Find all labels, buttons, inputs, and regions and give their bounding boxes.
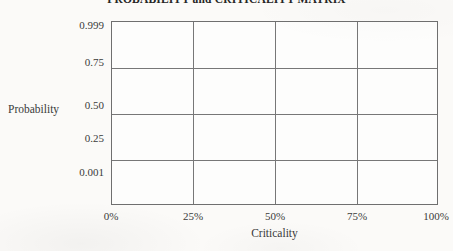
x-axis-title: Criticality <box>111 227 438 239</box>
x-tick-label: 50% <box>245 210 305 222</box>
vertical-gridline-2 <box>275 22 276 204</box>
x-tick-label: 75% <box>327 210 387 222</box>
y-tick-label: 0.50 <box>60 100 104 111</box>
y-axis-title: Probability <box>8 103 59 115</box>
y-tick-label: 0.001 <box>60 167 104 178</box>
probability-criticality-matrix-figure: PROBABILITY and CRITICALITY MATRIX 0.999… <box>0 0 453 251</box>
x-tick-label: 100% <box>406 210 453 222</box>
y-tick-label: 0.999 <box>60 20 104 31</box>
x-tick-label: 25% <box>163 210 223 222</box>
x-tick-label: 0% <box>81 210 141 222</box>
vertical-gridline-1 <box>193 22 194 204</box>
y-tick-label: 0.75 <box>60 57 104 68</box>
matrix-plot-area <box>111 21 438 205</box>
vertical-gridline-3 <box>357 22 358 204</box>
y-tick-label: 0.25 <box>60 133 104 144</box>
